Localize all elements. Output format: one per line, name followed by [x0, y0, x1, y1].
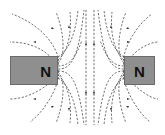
right-pole-label: N: [134, 64, 145, 79]
right-magnet: N: [124, 56, 155, 85]
left-pole-label: N: [40, 64, 51, 79]
magnet-field-diagram: N N: [0, 0, 165, 135]
left-magnet: N: [10, 56, 58, 85]
